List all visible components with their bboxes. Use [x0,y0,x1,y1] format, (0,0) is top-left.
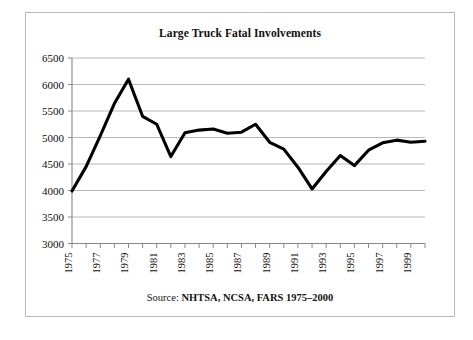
data-series-line [72,79,425,191]
y-axis-tick-group [68,58,72,244]
y-axis-tick-label: 3000 [42,238,65,250]
x-axis-tick-label: 1989 [261,253,272,274]
x-axis-tick-label: 1991 [289,253,300,274]
source-caption: Source: NHTSA, NCSA, FARS 1975–2000 [25,292,455,303]
y-axis-label-group: 30003500400045005000550060006500 [42,52,65,250]
gridline-group [72,58,425,217]
x-axis-tick-label: 1977 [91,253,102,274]
y-axis-tick-label: 5500 [42,105,65,117]
y-axis-tick-label: 4000 [42,185,65,197]
y-axis-tick-label: 3500 [42,211,65,223]
x-axis-label-group: 1975197719791981198319851987198919911993… [63,253,413,274]
source-caption-label: Source: [147,292,182,303]
x-axis-tick-label: 1999 [402,253,413,274]
source-caption-value: NHTSA, NCSA, FARS 1975–2000 [181,292,333,303]
x-axis-tick-label: 1979 [119,253,130,274]
x-axis-tick-label: 1987 [232,253,243,274]
x-axis-tick-label: 1983 [176,253,187,274]
line-chart-plot: 30003500400045005000550060006500 1975197… [0,0,473,340]
y-axis-tick-label: 6500 [42,52,65,64]
x-axis-tick-group [72,244,425,249]
x-axis-tick-label: 1997 [374,253,385,274]
figure-container: Large Truck Fatal Involvements 300035004… [0,0,473,340]
x-axis-tick-label: 1975 [63,253,74,274]
x-axis-tick-label: 1985 [204,253,215,274]
x-axis-tick-label: 1993 [317,253,328,274]
x-axis-tick-label: 1995 [345,253,356,274]
y-axis-tick-label: 6000 [42,79,65,91]
y-axis-tick-label: 5000 [42,132,65,144]
x-axis-tick-label: 1981 [148,253,159,274]
y-axis-tick-label: 4500 [42,158,65,170]
